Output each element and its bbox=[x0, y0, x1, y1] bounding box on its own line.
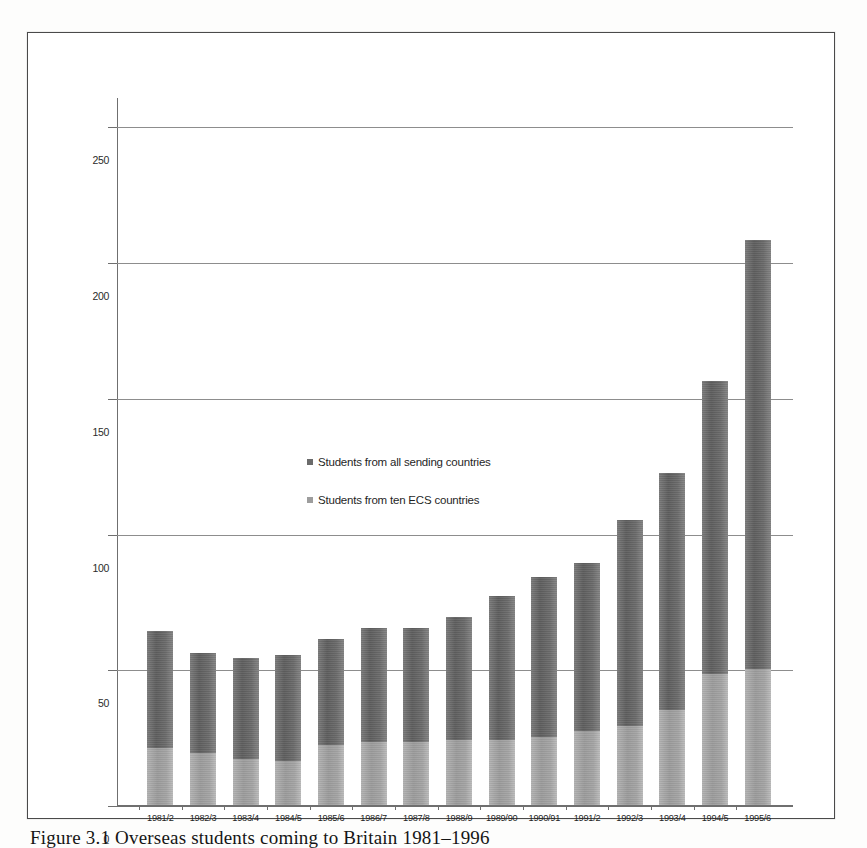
bar-segment-ten-ecs-countries bbox=[403, 742, 429, 804]
y-tick-label: 200 bbox=[92, 290, 109, 302]
bar-1984-5 bbox=[275, 655, 301, 804]
bar-segment-ten-ecs-countries bbox=[531, 737, 557, 805]
bar-1987-8 bbox=[403, 628, 429, 804]
y-tick bbox=[108, 670, 117, 671]
bar-segment-all-sending-countries bbox=[190, 653, 216, 753]
y-tick bbox=[108, 263, 117, 264]
bar-segment-all-sending-countries bbox=[318, 639, 344, 745]
x-tick-label: 1993/4 bbox=[659, 813, 686, 823]
bar-segment-all-sending-countries bbox=[233, 658, 259, 758]
bar-segment-ten-ecs-countries bbox=[233, 759, 259, 805]
x-tick-label: 1986/7 bbox=[360, 813, 387, 823]
y-axis-labels: 250200150100500 bbox=[85, 66, 109, 806]
bar-segment-all-sending-countries bbox=[659, 473, 685, 709]
bar-1988-9 bbox=[446, 617, 472, 804]
y-tick bbox=[108, 535, 117, 536]
square-marker-icon bbox=[307, 497, 313, 503]
legend-item-label: Students from ten ECS countries bbox=[318, 494, 479, 506]
bar-segment-ten-ecs-countries bbox=[617, 726, 643, 805]
bar-segment-ten-ecs-countries bbox=[489, 740, 515, 805]
bar-series-group bbox=[117, 98, 793, 805]
bar-1994-5 bbox=[702, 381, 728, 805]
x-tick-label: 1987/8 bbox=[403, 813, 430, 823]
bar-segment-all-sending-countries bbox=[147, 631, 173, 748]
bar-segment-ten-ecs-countries bbox=[275, 761, 301, 804]
bar-1985-6 bbox=[318, 639, 344, 805]
y-tick-label: 50 bbox=[98, 697, 109, 709]
legend-item-2: Students from ten ECS countries bbox=[307, 494, 491, 506]
bar-1982-3 bbox=[190, 653, 216, 805]
scanned-page: 250200150100500 1981/21982/31983/41984/5… bbox=[0, 0, 867, 848]
bar-1993-4 bbox=[659, 473, 685, 804]
x-tick-label: 1988/9 bbox=[446, 813, 473, 823]
bar-1986-7 bbox=[361, 628, 387, 804]
bar-segment-all-sending-countries bbox=[617, 520, 643, 726]
x-tick-label: 1983/4 bbox=[232, 813, 259, 823]
legend-item-label: Students from all sending countries bbox=[318, 456, 491, 468]
bar-segment-ten-ecs-countries bbox=[659, 710, 685, 805]
bar-segment-all-sending-countries bbox=[489, 596, 515, 740]
bar-1991-2 bbox=[574, 563, 600, 805]
x-tick-label: 1981/2 bbox=[147, 813, 174, 823]
bar-segment-ten-ecs-countries bbox=[574, 731, 600, 804]
bar-segment-all-sending-countries bbox=[702, 381, 728, 674]
y-tick bbox=[108, 127, 117, 128]
x-tick-label: 1989/90 bbox=[486, 813, 517, 823]
bar-segment-all-sending-countries bbox=[574, 563, 600, 731]
x-tick-label: 1982/3 bbox=[190, 813, 217, 823]
bar-segment-ten-ecs-countries bbox=[190, 753, 216, 805]
bar-segment-all-sending-countries bbox=[403, 628, 429, 742]
x-tick-label: 1990/91 bbox=[529, 813, 560, 823]
bar-segment-all-sending-countries bbox=[446, 617, 472, 739]
bar-1992-3 bbox=[617, 520, 643, 805]
y-tick-label: 250 bbox=[92, 154, 109, 166]
x-tick-label: 1984/5 bbox=[275, 813, 302, 823]
legend-item-1: Students from all sending countries bbox=[307, 456, 491, 468]
figure-frame: 250200150100500 1981/21982/31983/41984/5… bbox=[27, 32, 835, 819]
bar-segment-ten-ecs-countries bbox=[318, 745, 344, 805]
bar-segment-all-sending-countries bbox=[745, 240, 771, 669]
x-tick-label: 1992/3 bbox=[616, 813, 643, 823]
bar-1981-2 bbox=[147, 631, 173, 805]
x-tick-label: 1995/6 bbox=[744, 813, 771, 823]
x-tick-label: 1994/5 bbox=[702, 813, 729, 823]
x-tick-label: 1985/6 bbox=[318, 813, 345, 823]
bar-segment-all-sending-countries bbox=[531, 577, 557, 737]
bar-segment-ten-ecs-countries bbox=[361, 742, 387, 804]
y-tick bbox=[108, 399, 117, 400]
bar-segment-all-sending-countries bbox=[275, 655, 301, 761]
y-tick-label: 150 bbox=[92, 426, 109, 438]
figure-caption: Figure 3.1 Overseas students coming to B… bbox=[30, 827, 850, 848]
bar-1989-90 bbox=[489, 596, 515, 805]
bar-1995-6 bbox=[745, 240, 771, 805]
bar-segment-ten-ecs-countries bbox=[147, 748, 173, 805]
bar-segment-all-sending-countries bbox=[361, 628, 387, 742]
y-tick-label: 100 bbox=[92, 562, 109, 574]
x-tick-label: 1991/2 bbox=[574, 813, 601, 823]
square-marker-icon bbox=[307, 459, 313, 465]
bar-segment-ten-ecs-countries bbox=[446, 740, 472, 805]
chart-plot-area: 1981/21982/31983/41984/51985/61986/71987… bbox=[117, 66, 793, 806]
y-tick bbox=[108, 806, 117, 807]
bar-segment-ten-ecs-countries bbox=[702, 674, 728, 804]
bar-1990-91 bbox=[531, 577, 557, 805]
chart-legend: Students from all sending countriesStude… bbox=[307, 456, 491, 532]
bar-1983-4 bbox=[233, 658, 259, 805]
bar-segment-ten-ecs-countries bbox=[745, 669, 771, 805]
